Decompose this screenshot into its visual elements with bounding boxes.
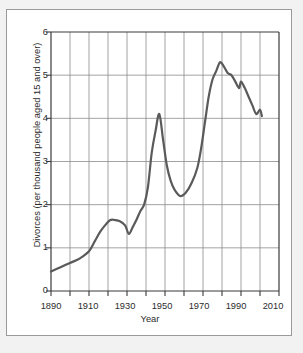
data-series-line bbox=[51, 62, 262, 271]
plot-svg bbox=[7, 10, 293, 337]
figure-frame: Divorces (per thousand people aged 15 an… bbox=[6, 9, 292, 336]
grid-lines bbox=[51, 32, 279, 291]
y-axis-ticks bbox=[46, 32, 51, 291]
x-axis-ticks bbox=[51, 291, 279, 296]
divorce-rate-line-chart: Divorces (per thousand people aged 15 an… bbox=[7, 10, 293, 337]
